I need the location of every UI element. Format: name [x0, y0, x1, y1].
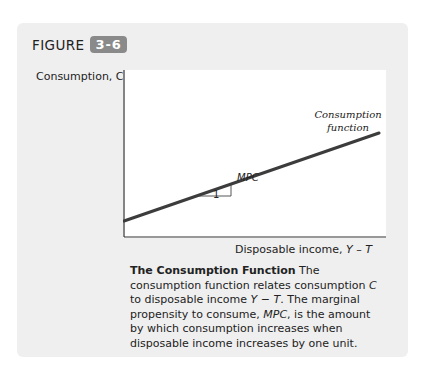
plot-area: Consumption function MPC 1	[123, 70, 386, 238]
caption-var-c: C	[369, 279, 377, 292]
y-axis-label: Consumption, C	[36, 70, 124, 83]
line-label-line1: Consumption	[303, 108, 393, 121]
figure-caption: The Consumption Function The consumption…	[130, 264, 382, 351]
consumption-function-label: Consumption function	[303, 108, 393, 134]
y-axis-label-text: Consumption, C	[36, 70, 124, 83]
caption-text: to disposable income	[130, 293, 251, 306]
caption-title: The Consumption Function	[130, 264, 296, 277]
figure-number-badge: 3-6	[90, 36, 127, 53]
x-axis-label-text: Disposable income,	[235, 243, 346, 256]
x-axis-variable: Y – T	[346, 243, 372, 256]
figure-label: FIGURE	[32, 37, 84, 53]
line-label-line2: function	[303, 121, 393, 134]
mpc-label: MPC	[237, 172, 259, 183]
figure-header: FIGURE 3-6	[32, 36, 127, 53]
one-unit-label: 1	[213, 189, 219, 200]
chart-svg	[123, 70, 386, 238]
caption-var-mpc: MPC	[263, 308, 287, 321]
caption-var-y-minus-t: Y − T	[251, 293, 281, 306]
